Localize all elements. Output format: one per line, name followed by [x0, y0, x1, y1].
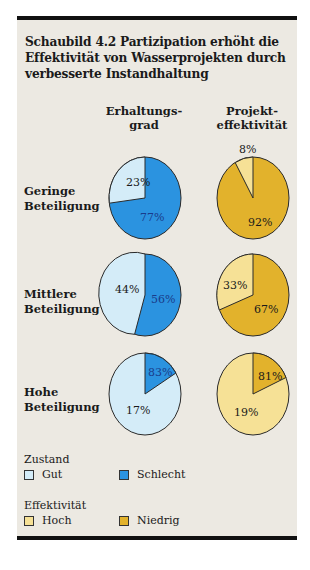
- slice-label-niedrig: 81%: [258, 370, 282, 383]
- legend-label-hoch: Hoch: [42, 514, 71, 527]
- pie-geringe-erhaltungsgrad: 23% 77%: [108, 156, 182, 240]
- legend-label-niedrig: Niedrig: [137, 514, 180, 527]
- slice-label-niedrig: 67%: [254, 303, 278, 316]
- pie-hohe-projekteffektivitaet: 81% 19%: [216, 352, 290, 436]
- pie-mittlere-projekteffektivitaet: 33% 67%: [216, 253, 290, 337]
- legend-item-hoch: Hoch: [24, 514, 71, 527]
- swatch-hoch: [24, 516, 34, 526]
- legend-item-niedrig: Niedrig: [119, 514, 180, 527]
- row-label-line: Mittlere: [24, 287, 100, 302]
- slice-label-gut: 44%: [115, 283, 139, 296]
- row-label-geringe: Geringe Beteiligung: [24, 184, 100, 214]
- pie-geringe-projekteffektivitaet: 8% 92%: [216, 156, 290, 240]
- slice-label-hoch: 19%: [234, 406, 258, 419]
- legend-title-zustand: Zustand: [24, 453, 69, 466]
- figure-panel: Schaubild 4.2 Partizipation erhöht die E…: [17, 16, 297, 540]
- row-label-line: Hohe: [24, 385, 100, 400]
- legend-title-effektivitaet: Effektivität: [24, 499, 86, 512]
- swatch-schlecht: [119, 470, 129, 480]
- legend-item-schlecht: Schlecht: [119, 468, 185, 481]
- slice-label-schlecht: 56%: [151, 293, 175, 306]
- slice-label-niedrig: 92%: [248, 216, 272, 229]
- legend-label-gut: Gut: [42, 468, 62, 481]
- column-header-projekteffektivitaet: Projekt- effektivität: [207, 104, 297, 132]
- column-header-erhaltungsgrad: Erhaltungs- grad: [99, 104, 189, 132]
- legend-label-schlecht: Schlecht: [137, 468, 185, 481]
- legend-item-gut: Gut: [24, 468, 62, 481]
- row-label-mittlere: Mittlere Beteiligung: [24, 287, 100, 317]
- slice-label-schlecht: 77%: [140, 211, 164, 224]
- row-label-hohe: Hohe Beteiligung: [24, 385, 100, 415]
- slice-label-schlecht: 83%: [148, 366, 172, 379]
- row-label-line: Beteiligung: [24, 302, 100, 317]
- column-header-line: grad: [99, 118, 189, 132]
- row-label-line: Geringe: [24, 184, 100, 199]
- slice-label-gut: 17%: [126, 404, 150, 417]
- figure-title: Schaubild 4.2 Partizipation erhöht die E…: [25, 34, 287, 82]
- column-header-line: Erhaltungs-: [99, 104, 189, 118]
- column-header-line: Projekt-: [207, 104, 297, 118]
- column-header-line: effektivität: [207, 118, 297, 132]
- row-label-line: Beteiligung: [24, 199, 100, 214]
- pie-hohe-erhaltungsgrad: 83% 17%: [108, 352, 182, 436]
- slice-label-hoch: 8%: [239, 143, 256, 156]
- row-label-line: Beteiligung: [24, 400, 100, 415]
- pie-mittlere-erhaltungsgrad: 44% 56%: [108, 253, 182, 337]
- swatch-niedrig: [119, 516, 129, 526]
- swatch-gut: [24, 470, 34, 480]
- slice-label-hoch: 33%: [223, 279, 247, 292]
- slice-label-gut: 23%: [126, 176, 150, 189]
